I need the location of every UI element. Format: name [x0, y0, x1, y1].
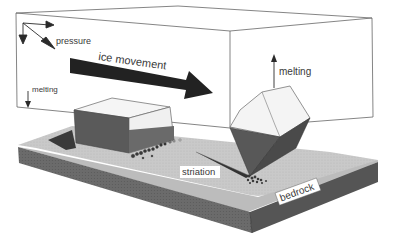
down-arrow-icon — [25, 91, 31, 108]
ice-block — [16, 6, 373, 128]
melting-label-right: melting — [279, 66, 311, 77]
three-arrows-icon — [19, 21, 55, 49]
glacier-diagram: pressure ice movement melting melting st… — [0, 0, 396, 247]
up-arrow-icon — [271, 54, 277, 88]
bright-speck — [163, 208, 167, 212]
pressure-label: pressure — [56, 36, 91, 46]
striation-label: striation — [182, 166, 215, 177]
melting-label-left: melting — [32, 85, 58, 94]
